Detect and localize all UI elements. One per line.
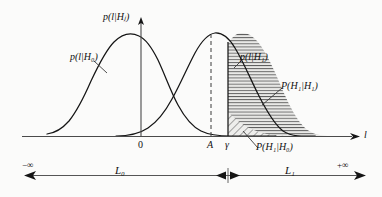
figure-canvas: p(l|Hⱼ) p(l|H₀) p(l|H₁) P(H₁|H₁) P(H₁|H₀… bbox=[0, 0, 382, 197]
curve-label-h0: p(l|H₀) bbox=[70, 52, 98, 62]
area-label-detection: P(H₁|H₁) bbox=[281, 81, 318, 91]
region-label-L1: L₁ bbox=[285, 165, 295, 176]
tick-label-gamma: γ bbox=[225, 140, 229, 150]
detection-diagram-svg bbox=[0, 0, 382, 197]
tick-label-A: A bbox=[207, 140, 213, 150]
y-axis-label: p(l|Hⱼ) bbox=[103, 12, 129, 22]
origin-tick-label: 0 bbox=[138, 140, 143, 150]
neg-infinity-label: −∞ bbox=[22, 160, 34, 170]
y-axis bbox=[138, 17, 144, 136]
area-label-false-alarm: P(H₁|H₀) bbox=[256, 142, 293, 152]
x-axis-label: l bbox=[364, 130, 367, 140]
pos-infinity-label: +∞ bbox=[337, 160, 349, 170]
region-label-L0: L₀ bbox=[115, 165, 125, 176]
curve-label-h1: p(l|H₁) bbox=[240, 52, 268, 62]
region-axis bbox=[24, 168, 366, 183]
